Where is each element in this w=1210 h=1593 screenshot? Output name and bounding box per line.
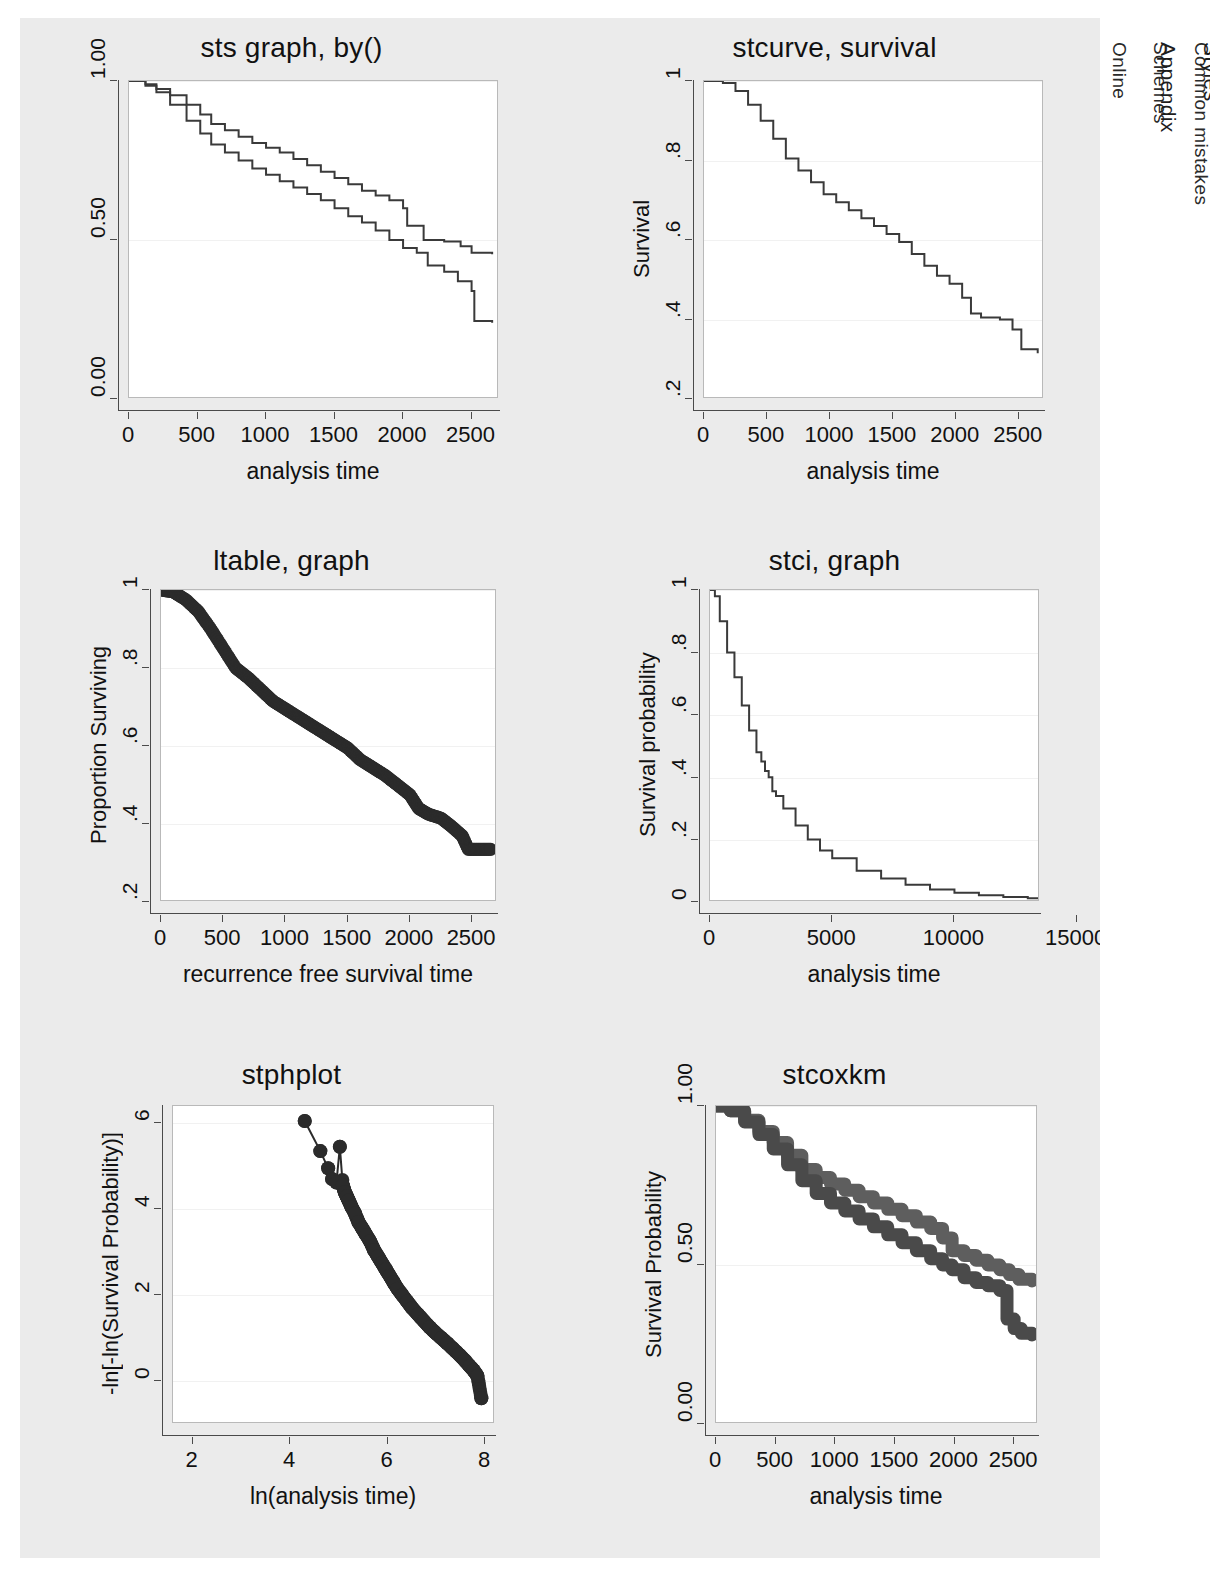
sidebar-item-appendix[interactable]: Appendix xyxy=(1158,42,1179,133)
x-axis-tick xyxy=(222,915,223,922)
sidebar-item-online[interactable]: Online xyxy=(1110,42,1129,99)
y-axis-tick xyxy=(110,239,117,240)
data-series-line xyxy=(129,81,492,254)
y-axis-tick xyxy=(691,714,698,715)
series-layer xyxy=(716,1106,1037,1423)
x-axis-tick xyxy=(484,1437,485,1444)
x-axis-tick-label: 4 xyxy=(283,1447,295,1473)
y-axis-title: -ln[-ln(Survival Probability)] xyxy=(98,1105,124,1423)
x-axis-tick xyxy=(834,1437,835,1444)
x-axis-spine xyxy=(705,1435,1039,1436)
y-axis-spine xyxy=(705,1105,706,1435)
x-axis-tick-label: 1500 xyxy=(322,925,371,951)
y-axis-tick xyxy=(154,1380,161,1381)
x-axis-tick-label: 1000 xyxy=(804,422,853,448)
x-axis-tick-label: 0 xyxy=(697,422,709,448)
plot-region: 0.000.501.0005001000150020002500analysis… xyxy=(715,1105,1037,1423)
y-axis-tick xyxy=(685,160,692,161)
x-axis-tick xyxy=(265,412,266,419)
x-axis-tick-label: 500 xyxy=(756,1447,793,1473)
x-axis-tick-label: 5000 xyxy=(807,925,856,951)
y-axis-tick xyxy=(685,319,692,320)
x-axis-tick-label: 500 xyxy=(204,925,241,951)
x-axis-tick xyxy=(128,412,129,419)
x-axis-tick-label: 1500 xyxy=(869,1447,918,1473)
plot-region: .2.4.6.8105001000150020002500recurrence … xyxy=(160,589,496,901)
figure-stcurve-survival: stcurve, survival .2.4.6.810500100015002… xyxy=(563,18,1106,531)
figure-title: stcurve, survival xyxy=(563,32,1106,64)
figure-title: stci, graph xyxy=(563,545,1106,577)
y-axis-tick xyxy=(685,239,692,240)
x-axis-tick xyxy=(829,412,830,419)
plot-area xyxy=(709,589,1039,901)
x-axis-tick xyxy=(402,412,403,419)
plot-region: 0.2.4.6.81050001000015000analysis timeSu… xyxy=(709,589,1039,901)
x-axis-spine xyxy=(118,410,500,411)
x-axis-tick-label: 2500 xyxy=(989,1447,1038,1473)
data-series-line xyxy=(129,81,492,323)
x-axis-tick-label: 2000 xyxy=(929,1447,978,1473)
x-axis-tick-label: 500 xyxy=(748,422,785,448)
x-axis-tick xyxy=(709,915,710,922)
sidebar-item-styles[interactable]: Styles xyxy=(1201,42,1210,102)
x-axis-tick xyxy=(197,412,198,419)
figure-title: stcoxkm xyxy=(563,1059,1106,1091)
x-axis-tick-label: 1000 xyxy=(260,925,309,951)
x-axis-tick-label: 0 xyxy=(122,422,134,448)
series-layer xyxy=(161,590,496,901)
x-axis-tick-label: 2000 xyxy=(930,422,979,448)
x-axis-tick-label: 1000 xyxy=(810,1447,859,1473)
x-axis-tick-label: 2000 xyxy=(384,925,433,951)
x-axis-spine xyxy=(693,410,1045,411)
x-axis-tick-label: 1000 xyxy=(241,422,290,448)
x-axis-tick xyxy=(1013,1437,1014,1444)
y-axis-tick xyxy=(697,1264,704,1265)
x-axis-tick xyxy=(703,412,704,419)
y-axis-tick xyxy=(685,80,692,81)
y-axis-title: Proportion Surviving xyxy=(86,589,112,901)
figure-grid: sts graph, by() 0.000.501.00050010001500… xyxy=(20,18,1106,1558)
figure-title: ltable, graph xyxy=(20,545,563,577)
figure-title: stphplot xyxy=(20,1059,563,1091)
data-point-marker xyxy=(333,1139,347,1153)
x-axis-tick-label: 0 xyxy=(709,1447,721,1473)
y-axis-spine xyxy=(118,80,119,410)
figure-stcoxkm: stcoxkm 0.000.501.0005001000150020002500… xyxy=(563,1045,1106,1558)
figure-stci-graph: stci, graph 0.2.4.6.81050001000015000ana… xyxy=(563,531,1106,1044)
x-axis-tick-label: 0 xyxy=(154,925,166,951)
x-axis-spine xyxy=(162,1435,496,1436)
y-axis-tick xyxy=(110,80,117,81)
data-point-marker xyxy=(313,1144,327,1158)
x-axis-tick xyxy=(284,915,285,922)
y-axis-title: Survival probability xyxy=(635,589,661,901)
x-axis-spine xyxy=(150,913,498,914)
plot-area xyxy=(172,1105,494,1423)
x-axis-tick xyxy=(894,1437,895,1444)
x-axis-title: analysis time xyxy=(709,961,1039,988)
x-axis-tick-label: 15000 xyxy=(1045,925,1106,951)
y-axis-spine xyxy=(693,80,694,410)
figure-ltable-graph: ltable, graph .2.4.6.8105001000150020002… xyxy=(20,531,563,1044)
series-layer xyxy=(704,81,1043,398)
x-axis-tick xyxy=(1076,915,1077,922)
x-axis-tick xyxy=(766,412,767,419)
y-axis-title: Survival Probability xyxy=(641,1105,667,1423)
x-axis-tick xyxy=(715,1437,716,1444)
plot-region: 0.000.501.0005001000150020002500analysis… xyxy=(128,80,498,398)
y-axis-tick xyxy=(691,839,698,840)
x-axis-tick xyxy=(387,1437,388,1444)
x-axis-tick-label: 1500 xyxy=(309,422,358,448)
data-point-marker xyxy=(474,1391,488,1405)
sidebar-outer-column: IntroductionEditorTwowayMatrixBarBoxDotP… xyxy=(1158,0,1210,1593)
x-axis-tick xyxy=(192,1437,193,1444)
y-axis-tick xyxy=(154,1208,161,1209)
data-series-line xyxy=(704,81,1038,353)
plot-area xyxy=(715,1105,1037,1423)
y-axis-tick xyxy=(142,589,149,590)
plot-region: 02462468ln(analysis time)-ln[-ln(Surviva… xyxy=(172,1105,494,1423)
y-axis-tick xyxy=(691,901,698,902)
plot-area xyxy=(160,589,496,901)
series-layer xyxy=(129,81,498,398)
x-axis-tick xyxy=(831,915,832,922)
series-layer xyxy=(173,1106,494,1423)
